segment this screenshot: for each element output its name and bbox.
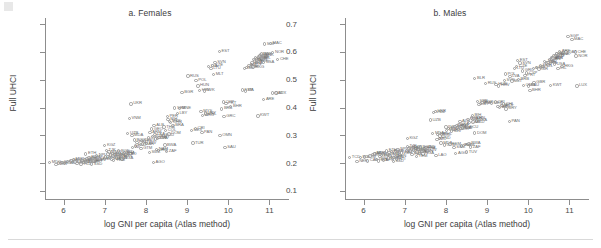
scatter-point [130,134,133,137]
scatter-point [503,79,506,82]
scatter-point [269,42,272,45]
x-tick-label-a: 11 [257,206,281,215]
y-tick-a [40,191,45,192]
scatter-point [162,125,165,128]
scatter-point [560,65,563,68]
scatter-point-label: LUX [579,83,587,88]
scatter-point [223,146,226,149]
x-axis-line-a [45,199,289,200]
scatter-point-label: KWT [260,113,269,118]
x-tick-a [269,200,270,205]
scatter-point [528,89,531,92]
scatter-point [570,38,573,41]
scatter-point-label: SAU [227,145,235,150]
scatter-point-label: KGZ [107,143,115,148]
scatter-point-label: PAN [512,119,520,124]
scatter-point [429,118,432,121]
scatter-point-label: SSD [395,159,403,164]
scatter-point-label: SLV [149,141,156,146]
scatter-point-label: ITA [248,88,254,93]
y-tick-label-b: 0.2 [286,159,297,168]
scatter-point-label: URY [207,111,216,116]
figure-container: a. Females Full UHCI log GNI per capita … [0,0,601,248]
scatter-point-label: HKG [255,65,264,70]
scatter-point-label: URY [508,106,517,111]
scatter-point [490,102,493,105]
scatter-point [198,89,201,92]
scatter-point [139,147,142,150]
scatter-point [443,143,446,146]
scatter-point [247,64,250,67]
scatter-point [508,75,511,78]
y-tick-label-b: 0.4 [286,103,297,112]
scatter-point [355,160,358,163]
y-tick-label-b: 0.3 [286,131,297,140]
scatter-point [522,84,525,87]
scatter-point-label: GBR [536,80,545,85]
scatter-point [148,131,151,134]
scatter-point-label: CYP [529,71,537,76]
scatter-point-label: ARE [562,49,570,54]
plot-area-females [45,20,288,195]
x-tick-b [569,200,570,205]
scatter-point-label: NZL [545,64,553,69]
scatter-point [171,124,174,127]
scatter-point-label: BGR [184,90,193,95]
x-tick-label-b: 6 [352,206,376,215]
scatter-point [162,134,165,137]
scatter-point-label: LBY [179,111,187,116]
scatter-point-label: SVN [217,60,225,65]
scatter-point-label: YEM [418,154,427,159]
panel-females: a. Females Full UHCI log GNI per capita … [0,0,300,238]
scatter-point-label: BIH [474,113,481,118]
scatter-point [105,149,108,152]
scatter-point [518,61,521,64]
scatter-point [471,114,474,117]
scatter-point-label: DOM [477,131,487,136]
y-axis-label-b: Full UHCI [308,33,318,153]
scatter-point [191,141,194,144]
scatter-point [434,154,437,157]
scatter-point-label: ZAF [169,149,177,154]
scatter-point-label: BWA [167,143,176,148]
scatter-point [263,42,266,45]
panel-a-title: a. Females [0,8,300,18]
scatter-point [452,146,455,149]
y-tick-b [340,163,345,164]
scatter-point [480,101,483,104]
y-tick-label-b: 0.1 [286,186,297,195]
x-tick-label-a: 10 [216,206,240,215]
x-tick-label-b: 10 [516,206,540,215]
scatter-point [194,79,197,82]
scatter-point [203,89,206,92]
scatter-point [204,111,207,114]
x-axis-label-b: log GNI per capita (Atlas method) [345,219,589,229]
y-axis-label-a: Full UHCI [8,33,18,153]
y-tick-a [40,24,45,25]
scatter-point-label: EST [221,49,229,54]
x-axis-line-b [345,199,589,200]
scatter-point [537,67,540,70]
scatter-point-label: UKR [133,101,142,106]
scatter-point [260,56,263,59]
scatter-point-label: HRV [501,83,510,88]
x-tick-b [364,200,365,205]
scatter-point-label: LAO [438,153,446,158]
scatter-point [194,127,197,130]
y-tick-label-b: 0.5 [286,75,297,84]
x-tick-a [146,200,147,205]
scatter-point [90,162,93,165]
scatter-point-label: ARE [266,97,274,102]
x-tick-label-b: 7 [393,206,417,215]
scatter-point-label: KWT [553,83,562,88]
scatter-point [387,156,390,159]
scatter-point-label: YEM [116,158,125,163]
scatter-point-label: MLT [216,72,224,77]
scatter-point [510,79,513,82]
scatter-point-label: SVN [522,61,530,66]
scatter-point [566,35,569,38]
scatter-point [504,72,507,75]
scatter-point-label: SVK [207,88,215,93]
scatter-point-label: GRC [226,114,235,119]
y-tick-a [40,163,45,164]
